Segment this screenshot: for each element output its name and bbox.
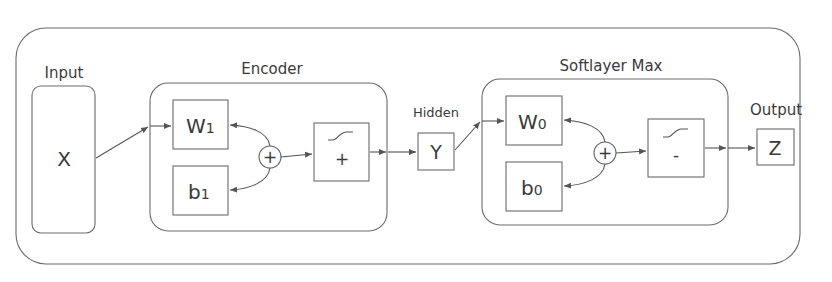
hidden-y-node: Y (429, 141, 442, 163)
sigmoid0-icon (663, 129, 688, 137)
w1-label: W1 (186, 114, 215, 138)
outer-container (16, 28, 800, 264)
b1-label: b1 (188, 180, 210, 204)
encoder-label: Encoder (241, 60, 303, 78)
hidden-label: Hidden (413, 105, 459, 120)
arrow-sum1-to-b1 (230, 168, 270, 190)
softlayer-label: Softlayer Max (559, 57, 662, 75)
sum0-sign: + (598, 143, 612, 163)
output-z-node: Z (768, 137, 781, 159)
arrow-y-to-softlayer (455, 122, 480, 150)
diagram-canvas: Input X Encoder W1 b1 + + Hidden Y Softl… (0, 0, 832, 282)
input-label: Input (45, 64, 84, 82)
activation0-sign: - (673, 145, 679, 165)
arrow-x-to-encoder (96, 127, 148, 158)
arrow-sum0-to-activation0 (616, 151, 646, 153)
sigmoid1-icon (328, 132, 353, 140)
w0-label: W0 (518, 110, 547, 134)
output-label: Output (750, 101, 802, 119)
b0-label: b0 (521, 176, 543, 200)
arrow-sum1-to-w1 (230, 125, 270, 146)
input-x-node: X (57, 147, 71, 171)
activation1-sign: + (335, 149, 349, 169)
arrow-sum0-to-b0 (564, 164, 605, 186)
arrow-sum1-to-activation1 (281, 154, 312, 157)
sum1-sign: + (263, 147, 277, 167)
arrow-sum0-to-w0 (564, 120, 605, 142)
